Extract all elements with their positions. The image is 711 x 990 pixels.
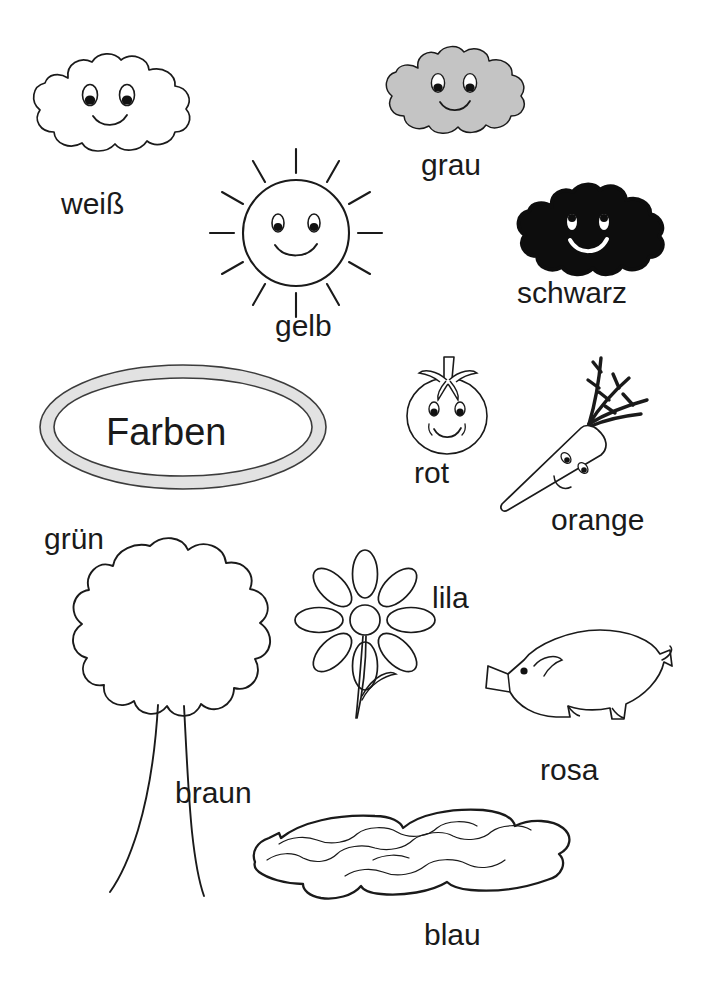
label-rot: rot <box>414 458 449 488</box>
figure-cloud-black <box>508 180 668 280</box>
figure-flower <box>300 552 430 724</box>
label-schwarz: schwarz <box>517 278 627 308</box>
page-title: Farben <box>106 411 226 454</box>
figure-tomato <box>398 352 498 462</box>
label-orange: orange <box>551 505 644 535</box>
figure-cloud-white <box>18 48 198 160</box>
label-gelb: gelb <box>275 311 332 341</box>
label-blau: blau <box>424 920 481 950</box>
figure-sun <box>206 145 386 317</box>
figure-water-puddle <box>245 800 575 910</box>
figure-pig <box>484 620 680 732</box>
worksheet-page: weiß grau <box>0 0 711 990</box>
label-rosa: rosa <box>540 755 598 785</box>
label-grau: grau <box>421 150 481 180</box>
label-weiss: weiß <box>61 189 124 219</box>
figure-cloud-gray <box>375 42 533 138</box>
label-lila: lila <box>432 583 469 613</box>
figure-carrot <box>495 348 655 514</box>
label-braun: braun <box>175 778 252 808</box>
